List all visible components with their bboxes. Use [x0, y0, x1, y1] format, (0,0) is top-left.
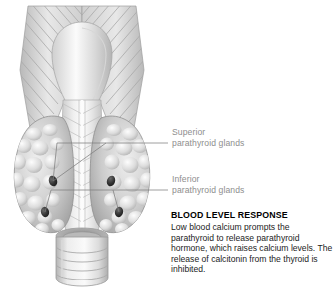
thyroid-lobe-right-group: [90, 116, 154, 235]
response-body-text: Low blood calcium prompts the parathyroi…: [171, 222, 333, 275]
thyroid-anatomy-figure: Superior parathyroid glands Inferior par…: [0, 0, 335, 300]
trachea-tube: [56, 237, 108, 286]
response-heading: BLOOD LEVEL RESPONSE: [171, 210, 333, 221]
label-superior-line1: Superior: [172, 127, 245, 138]
label-superior-line2: parathyroid glands: [172, 138, 245, 149]
label-inferior-line1: Inferior: [172, 174, 245, 185]
label-inferior-line2: parathyroid glands: [172, 185, 245, 196]
blood-level-response-block: BLOOD LEVEL RESPONSE Low blood calcium p…: [171, 210, 333, 275]
thyroid-lobe-left-group: [10, 116, 74, 235]
trachea-group: [56, 228, 108, 286]
label-inferior-parathyroid-glands: Inferior parathyroid glands: [172, 174, 245, 196]
label-superior-parathyroid-glands: Superior parathyroid glands: [172, 127, 245, 149]
